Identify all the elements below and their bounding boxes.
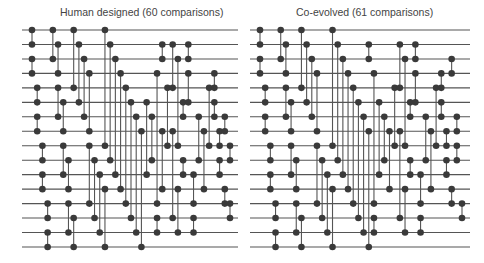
comparator — [438, 70, 445, 91]
comparator — [262, 85, 269, 106]
comparator-node — [443, 157, 450, 164]
comparator-node — [29, 41, 36, 48]
comparator-node — [340, 171, 347, 178]
comparator — [227, 142, 234, 163]
comparator-node — [397, 85, 404, 92]
comparator-node — [376, 99, 383, 106]
comparator — [190, 215, 197, 236]
comparator-node — [283, 41, 290, 48]
comparator-node — [227, 142, 234, 149]
comparator-node — [298, 244, 305, 251]
comparator-node — [39, 157, 46, 164]
comparator-node — [128, 215, 135, 222]
comparator-node — [459, 215, 466, 222]
comparator — [422, 114, 429, 164]
comparator — [39, 142, 46, 163]
comparator-node — [267, 171, 274, 178]
comparator-node — [324, 171, 331, 178]
comparator-node — [329, 244, 336, 251]
comparator — [154, 215, 161, 236]
comparator-node — [29, 56, 36, 63]
comparator-node — [454, 114, 461, 121]
comparator-node — [386, 128, 393, 135]
comparator-node — [272, 229, 279, 236]
comparator-node — [29, 70, 36, 77]
comparator — [272, 200, 279, 221]
comparator-node — [334, 157, 341, 164]
comparator-node — [149, 157, 156, 164]
comparator-node — [34, 128, 41, 135]
comparator — [459, 200, 466, 221]
comparator-node — [402, 186, 409, 193]
comparator-node — [211, 85, 218, 92]
comparator — [376, 99, 383, 178]
comparator — [44, 229, 51, 250]
comparator-node — [412, 41, 419, 48]
comparator-node — [143, 171, 150, 178]
comparator-node — [112, 56, 119, 63]
comparator — [402, 186, 409, 236]
comparator-node — [34, 99, 41, 106]
comparator — [29, 27, 36, 48]
comparator-node — [34, 114, 41, 121]
comparator-node — [81, 56, 88, 63]
comparator-node — [438, 70, 445, 77]
comparator — [438, 99, 445, 120]
comparator-node — [407, 157, 414, 164]
comparator-node — [159, 128, 166, 135]
comparator — [272, 229, 279, 250]
comparator-node — [448, 70, 455, 77]
comparator-node — [122, 85, 129, 92]
comparator-node — [86, 128, 93, 135]
comparator-node — [298, 215, 305, 222]
comparator-node — [407, 114, 414, 121]
comparator — [34, 85, 41, 106]
comparator — [371, 215, 378, 236]
comparator-node — [50, 56, 57, 63]
comparator-node — [397, 41, 404, 48]
comparator-node — [340, 56, 347, 63]
comparator-node — [345, 186, 352, 193]
comparator-node — [454, 128, 461, 135]
comparator — [159, 41, 166, 62]
comparator — [443, 128, 450, 149]
comparator — [180, 157, 187, 178]
comparator — [365, 41, 372, 62]
comparator-node — [81, 114, 88, 121]
comparator-node — [86, 70, 93, 77]
comparator-node — [185, 99, 192, 106]
comparator-node — [412, 70, 419, 77]
comparator-node — [44, 244, 51, 251]
comparator-node — [454, 142, 461, 149]
comparator-node — [55, 41, 62, 48]
comparator-node — [314, 200, 321, 207]
comparator-node — [169, 85, 176, 92]
comparator — [221, 114, 228, 135]
comparator-node — [293, 200, 300, 207]
comparator-node — [360, 229, 367, 236]
comparator-node — [381, 114, 388, 121]
comparator-node — [277, 27, 284, 34]
comparator — [39, 171, 46, 192]
comparator-node — [107, 157, 114, 164]
comparator — [443, 157, 450, 178]
comparator-node — [448, 200, 455, 207]
comparator — [143, 99, 150, 178]
comparator-node — [402, 56, 409, 63]
comparator-node — [267, 142, 274, 149]
sorting-networks-diagram — [0, 0, 484, 263]
comparator-node — [262, 85, 269, 92]
comparator-node — [397, 215, 404, 222]
comparator-node — [443, 142, 450, 149]
comparator-node — [39, 186, 46, 193]
comparator-node — [262, 128, 269, 135]
comparator-node — [329, 186, 336, 193]
comparator-node — [267, 157, 274, 164]
comparator-node — [448, 186, 455, 193]
comparator-node — [180, 171, 187, 178]
comparator — [381, 114, 388, 164]
comparator-node — [277, 56, 284, 63]
comparator-node — [180, 114, 187, 121]
comparator — [267, 171, 274, 192]
comparator-node — [303, 99, 310, 106]
